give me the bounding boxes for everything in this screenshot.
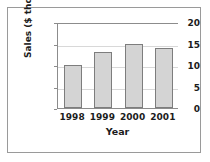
- x-axis-tick-label: 2001: [148, 112, 178, 122]
- gridline: [58, 46, 178, 47]
- x-axis-tick-label: 1998: [57, 112, 87, 122]
- bar: [94, 52, 112, 108]
- chart-figure-frame: Sales ($ thousands) 05101520 19981999200…: [7, 7, 201, 153]
- x-axis-tick-label: 1999: [87, 112, 117, 122]
- bar: [125, 44, 143, 109]
- x-axis-title: Year: [57, 126, 178, 137]
- plot-area: [57, 23, 178, 109]
- y-axis-title: Sales ($ thousands): [23, 0, 37, 58]
- x-axis-tick-label: 2000: [118, 112, 148, 122]
- y-axis-tick-mark: [54, 109, 57, 110]
- bar: [155, 48, 173, 108]
- bar: [64, 65, 82, 108]
